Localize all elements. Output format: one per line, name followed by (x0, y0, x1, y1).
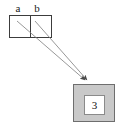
variable-cell-a (10, 16, 31, 37)
object-value-box: 3 (84, 95, 105, 115)
variable-cell-b (31, 16, 51, 37)
variable-label-b: b (31, 3, 43, 14)
memory-reference-diagram: a b 3 (0, 0, 123, 127)
object-value-text: 3 (92, 100, 98, 111)
object-box: 3 (73, 84, 115, 122)
variable-frame (9, 15, 52, 38)
variable-label-a: a (12, 3, 24, 14)
